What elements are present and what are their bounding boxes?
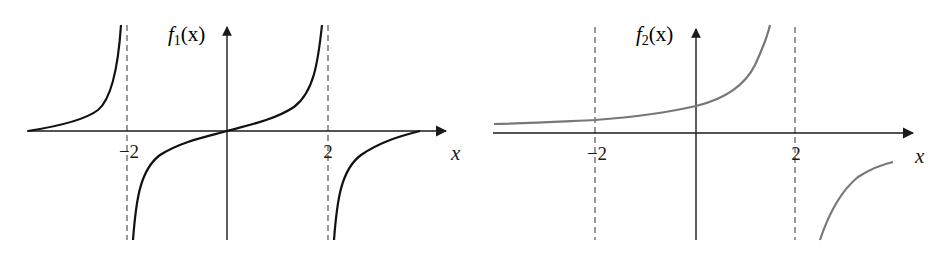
tick-label-neg2: −2 [119,141,139,162]
f2-branch-right [820,162,893,240]
y-axis-label: f2(x) [636,22,673,48]
chart-f2: −2 2 x f2(x) [493,22,925,240]
tick-label-neg2: −2 [587,143,607,164]
x-axis-label: x [914,144,925,168]
figure: −2 2 x f1(x) −2 2 x f2(x) [0,0,946,257]
y-axis-label: f1(x) [168,22,205,48]
f1-branch-left [28,25,121,131]
f2-branch-left [494,25,770,124]
tick-label-pos2: 2 [791,143,801,164]
f1-branch-right [334,131,420,240]
tick-label-pos2: 2 [323,141,333,162]
chart-f1: −2 2 x f1(x) [27,22,461,240]
x-axis-label: x [450,141,461,165]
